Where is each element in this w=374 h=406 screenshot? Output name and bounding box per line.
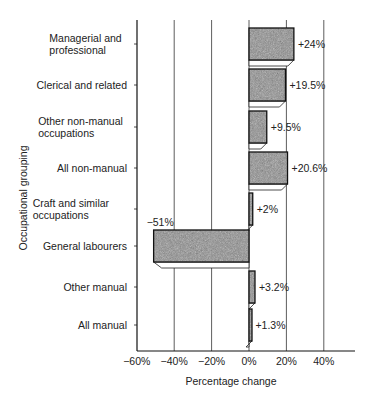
value-label: +2%: [257, 203, 278, 215]
bar: [249, 152, 288, 190]
bar: [247, 193, 253, 231]
x-tick-label: −60%: [123, 355, 150, 367]
bar: [249, 28, 294, 66]
x-tick-label: −20%: [198, 355, 225, 367]
category-label: General labourers: [43, 240, 127, 252]
value-label: +20.6%: [292, 162, 328, 174]
category-label: All manual: [78, 319, 127, 331]
category-label: Managerial andprofessional: [49, 32, 122, 56]
category-label: Clerical and related: [37, 79, 128, 91]
bar: [246, 309, 252, 347]
category-label: Other manual: [63, 281, 127, 293]
y-axis-title: Occupational grouping: [17, 145, 29, 250]
category-label: All non-manual: [57, 162, 127, 174]
bar-chart: +24%Managerial andprofessional+19.5%Cler…: [0, 0, 374, 406]
value-label: +19.5%: [289, 79, 325, 91]
x-axis-title: Percentage change: [185, 375, 276, 387]
x-tick-label: 40%: [313, 355, 334, 367]
value-label: +3.2%: [259, 281, 289, 293]
x-tick-label: 0%: [241, 355, 256, 367]
value-label: +9.5%: [271, 121, 301, 133]
x-tick-label: 20%: [276, 355, 297, 367]
bar: [249, 69, 285, 107]
bar: [154, 230, 249, 268]
axes: [134, 20, 355, 351]
category-label: Craft and similaroccupations: [33, 197, 110, 221]
value-label: +24%: [298, 38, 325, 50]
category-label: Other non-manualoccupations: [38, 115, 123, 139]
value-label: +1.3%: [255, 319, 285, 331]
bar: [249, 111, 267, 149]
x-tick-label: −40%: [161, 355, 188, 367]
value-label: −51%: [147, 216, 174, 228]
bar: [249, 271, 255, 309]
bars: [154, 28, 294, 347]
